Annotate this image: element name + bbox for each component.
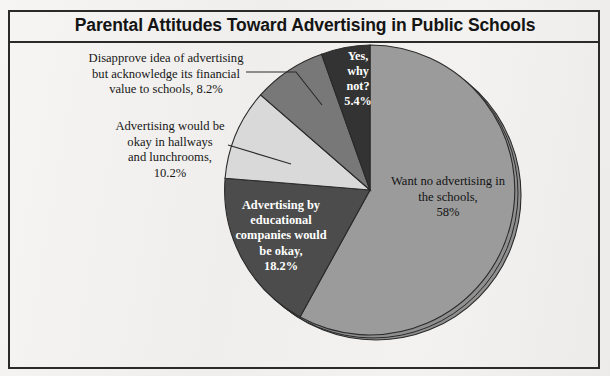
slice-label-yes-why-not: Yes, why not? 5.4%	[336, 49, 380, 109]
chart-title: Parental Attitudes Toward Advertising in…	[0, 15, 610, 36]
callout-label-hallways-lunchrooms: Advertising would be okay in hallways an…	[86, 119, 254, 181]
chart-page: Parental Attitudes Toward Advertising in…	[0, 0, 610, 376]
frame-bottom-border	[8, 367, 600, 369]
callout-label-disapprove-financial-value: Disapprove idea of advertising but ackno…	[62, 51, 270, 98]
frame-top-border	[8, 10, 600, 12]
slice-label-want-no-advertising: Want no advertising in the schools, 58%	[390, 174, 506, 221]
frame-right-border	[598, 10, 600, 369]
pie-chart-area: Disapprove idea of advertising but ackno…	[10, 43, 598, 367]
slice-label-educational-companies: Advertising by educational companies wou…	[210, 198, 352, 274]
